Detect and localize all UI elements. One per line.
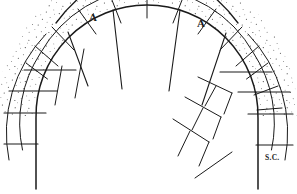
arch-drawing-svg [0,0,297,194]
right-lower-block-joints [173,77,232,178]
label-springing-course: S.C. [265,153,280,162]
arch-diagram-figure: A A S.C. [0,0,297,194]
label-a-right: A [197,17,205,29]
label-a-left: A [89,11,97,23]
voussoir-stipple-fill [0,0,297,116]
left-ring-cross-joints [55,49,84,105]
